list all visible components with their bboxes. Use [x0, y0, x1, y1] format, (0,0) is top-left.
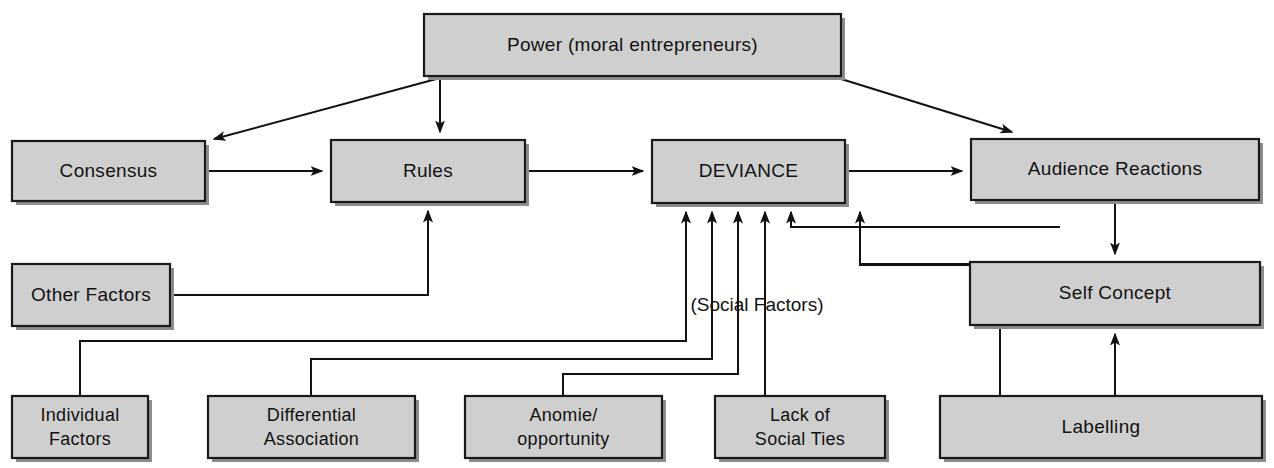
node-deviance[interactable]: DEVIANCE	[652, 140, 849, 207]
node-rules[interactable]: Rules	[331, 140, 529, 206]
deviance-flow-diagram: Power (moral entrepreneurs) Consensus Ru…	[0, 0, 1274, 468]
connector-layer	[80, 78, 1115, 396]
node-audience-reactions[interactable]: Audience Reactions	[971, 139, 1263, 204]
node-audience-reactions-label: Audience Reactions	[1028, 158, 1202, 179]
node-anomie-opportunity-label-line2: opportunity	[517, 429, 609, 449]
node-other-factors-label: Other Factors	[31, 284, 151, 305]
node-individual-factors[interactable]: Individual Factors	[12, 396, 152, 462]
connector-power-to-audience	[838, 78, 1012, 132]
connector-power-to-consensus	[214, 78, 440, 139]
node-lack-of-social-ties[interactable]: Lack of Social Ties	[715, 396, 889, 462]
node-self-concept-label: Self Concept	[1059, 282, 1172, 303]
node-power[interactable]: Power (moral entrepreneurs)	[424, 14, 845, 80]
node-individual-factors-label-line2: Factors	[49, 429, 111, 449]
node-rules-label: Rules	[403, 160, 453, 181]
node-other-factors[interactable]: Other Factors	[12, 264, 174, 330]
connector-self-to-deviance	[860, 212, 970, 265]
node-individual-factors-label-line1: Individual	[40, 405, 119, 425]
node-labelling[interactable]: Labelling	[940, 396, 1266, 462]
social-factors-label: (Social Factors)	[690, 294, 823, 315]
connector-differential-to-deviance	[311, 212, 712, 396]
connector-audience-to-deviance	[791, 212, 1060, 227]
node-lack-of-social-ties-label-line2: Social Ties	[755, 429, 845, 449]
node-consensus[interactable]: Consensus	[12, 141, 209, 205]
node-consensus-label: Consensus	[60, 160, 158, 181]
node-lack-of-social-ties-label-line1: Lack of	[770, 405, 831, 425]
node-power-label: Power (moral entrepreneurs)	[507, 34, 758, 55]
node-layer: Power (moral entrepreneurs) Consensus Ru…	[12, 14, 1266, 462]
node-self-concept[interactable]: Self Concept	[970, 262, 1264, 329]
node-differential-association-label-line1: Differential	[267, 405, 356, 425]
connector-other-to-rules	[170, 211, 428, 295]
node-differential-association-label-line2: Association	[264, 429, 359, 449]
node-anomie-opportunity[interactable]: Anomie/ opportunity	[465, 396, 666, 462]
node-anomie-opportunity-label-line1: Anomie/	[529, 405, 597, 425]
node-deviance-label: DEVIANCE	[699, 160, 799, 181]
diagram-canvas: Power (moral entrepreneurs) Consensus Ru…	[0, 0, 1274, 468]
node-differential-association[interactable]: Differential Association	[208, 396, 419, 462]
node-labelling-label: Labelling	[1062, 416, 1141, 437]
